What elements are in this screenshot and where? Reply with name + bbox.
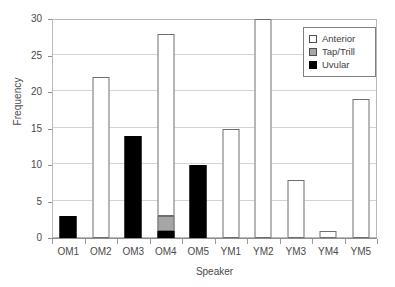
bar-slot <box>117 19 150 238</box>
bar-slot <box>85 19 118 238</box>
bar-segment-anterior <box>352 99 369 238</box>
y-axis-tick-label: 15 <box>2 124 42 134</box>
bar-segment-anterior <box>222 129 239 239</box>
legend-item-anterior: Anterior <box>309 33 375 45</box>
legend-item-taptrill: Tap/Trill <box>309 46 375 58</box>
legend-label: Anterior <box>322 34 355 44</box>
white-square-icon <box>309 35 317 43</box>
y-axis-tick-label: 0 <box>2 233 42 243</box>
bar-slot <box>215 19 248 238</box>
x-axis-tick-mark <box>312 239 313 244</box>
x-axis-tick-mark <box>215 239 216 244</box>
bar-segment-uvular <box>125 136 142 238</box>
y-axis-title: Frequency <box>12 52 23 152</box>
x-axis-tick-mark <box>345 239 346 244</box>
legend-label: Tap/Trill <box>322 47 355 57</box>
bar-segment-taptrill <box>157 216 174 231</box>
bar-segment-anterior <box>157 34 174 217</box>
chart-legend: Anterior Tap/Trill Uvular <box>303 27 376 77</box>
x-axis-tick-mark <box>52 239 53 244</box>
x-axis-tick-mark <box>280 239 281 244</box>
bar-slot <box>150 19 183 238</box>
bar-chart: Frequency 051015202530 OM1OM2OM3OM4OM5YM… <box>0 0 395 287</box>
legend-item-uvular: Uvular <box>309 59 375 71</box>
x-axis-tick-mark <box>85 239 86 244</box>
x-axis-tick-mark <box>182 239 183 244</box>
y-axis-tick-label: 25 <box>2 51 42 61</box>
y-axis-tick-label: 20 <box>2 87 42 97</box>
x-axis-tick-mark <box>377 239 378 244</box>
x-axis-tick-label: YM5 <box>337 247 385 257</box>
bar-segment-uvular <box>190 165 207 238</box>
black-square-icon <box>309 61 317 69</box>
y-axis-tick-label: 5 <box>2 197 42 207</box>
bar-slot <box>247 19 280 238</box>
x-axis-tick-mark <box>150 239 151 244</box>
bar-segment-uvular <box>60 216 77 238</box>
bar-segment-uvular <box>157 231 174 238</box>
x-axis-tick-mark <box>117 239 118 244</box>
bar-slot <box>52 19 85 238</box>
x-axis-tick-mark <box>247 239 248 244</box>
y-axis-tick-label: 10 <box>2 160 42 170</box>
x-axis-title: Speaker <box>52 266 377 277</box>
gray-square-icon <box>309 48 317 56</box>
bar-segment-anterior <box>255 19 272 238</box>
y-axis-tick-label: 30 <box>2 14 42 24</box>
bar-slot <box>182 19 215 238</box>
bar-segment-anterior <box>287 180 304 238</box>
bar-segment-anterior <box>92 77 109 238</box>
legend-label: Uvular <box>322 60 349 70</box>
bar-segment-anterior <box>320 231 337 238</box>
